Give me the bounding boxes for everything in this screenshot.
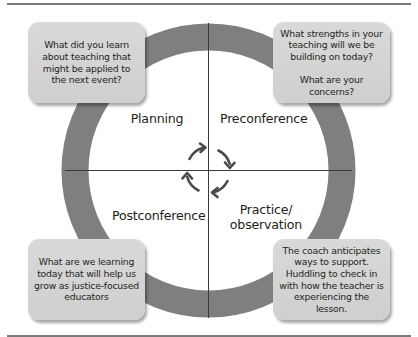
bottom-rule: [7, 335, 411, 337]
callout-text: What did you learn about teaching that m…: [42, 39, 130, 85]
callout-practice-support: The coach anticipates ways to support. H…: [273, 239, 390, 320]
stage-label-practice-observation: Practice/ observation: [228, 202, 304, 232]
callout-text: The coach anticipates ways to support. H…: [278, 245, 385, 315]
callout-preconference-questions: What strengths in your teaching will we …: [273, 22, 390, 103]
callout-text: What are we learning today that will hel…: [34, 256, 139, 302]
stage-label-preconference: Preconference: [220, 111, 306, 126]
callout-planning-reflection: What did you learn about teaching that m…: [28, 22, 145, 103]
callout-text: What strengths in your teaching will we …: [278, 28, 385, 98]
stage-label-planning: Planning: [128, 111, 186, 126]
callout-postconference-learning: What are we learning today that will hel…: [28, 239, 145, 320]
stage-label-postconference: Postconference: [112, 208, 202, 223]
